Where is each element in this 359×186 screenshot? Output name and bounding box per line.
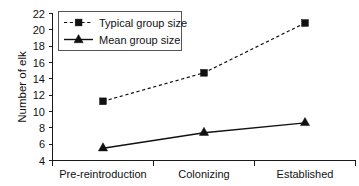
- y-tick-label-8: 8: [39, 122, 45, 134]
- y-tick-label-16: 16: [33, 57, 45, 69]
- data-point-mean-established: [300, 118, 309, 126]
- data-point-mean-pre-reintroduction: [98, 143, 107, 151]
- legend-label-typical-group-size: Typical group size: [99, 17, 187, 29]
- x-category-label-established: Established: [277, 168, 334, 180]
- y-tick-label-20: 20: [33, 24, 45, 36]
- data-point-typical-established: [302, 20, 309, 27]
- chart-legend: Typical group size Mean group size: [59, 12, 188, 51]
- data-point-typical-colonizing: [201, 69, 208, 76]
- y-tick-label-10: 10: [33, 106, 45, 118]
- legend-label-mean-group-size: Mean group size: [99, 34, 180, 46]
- y-tick-label-6: 6: [39, 138, 45, 150]
- y-axis-title: Number of elk: [16, 51, 28, 123]
- legend-square-marker-icon: [75, 19, 82, 26]
- data-point-mean-colonizing: [199, 127, 208, 135]
- x-axis-ticks: [53, 161, 356, 166]
- y-tick-label-4: 4: [39, 155, 45, 167]
- y-tick-label-18: 18: [33, 40, 45, 52]
- data-point-typical-pre-reintroduction: [100, 98, 107, 105]
- x-category-label-pre-reintroduction: Pre-reintroduction: [59, 168, 146, 180]
- y-tick-label-22: 22: [33, 8, 45, 20]
- series-markers-mean-group-size: [98, 118, 309, 151]
- x-category-label-colonizing: Colonizing: [178, 168, 229, 180]
- line-chart: 22 20 18 16 14 12 10 8 6 4 Number of elk…: [0, 0, 359, 186]
- y-axis-ticks: [49, 14, 53, 161]
- y-tick-label-14: 14: [33, 73, 45, 85]
- y-tick-label-12: 12: [33, 89, 45, 101]
- chart-figure: 22 20 18 16 14 12 10 8 6 4 Number of elk…: [0, 0, 359, 186]
